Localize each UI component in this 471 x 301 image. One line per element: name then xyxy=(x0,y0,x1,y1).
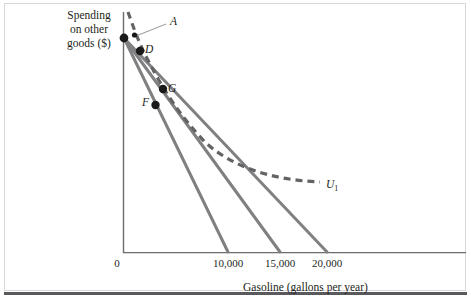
point-D-marker xyxy=(136,47,144,55)
point-A-label: A xyxy=(170,15,177,27)
x-axis-title: Gasoline (gallons per year) xyxy=(243,281,368,293)
endowment-point-marker xyxy=(120,34,129,43)
y-axis-title-row-2: on other xyxy=(58,22,120,36)
budget-line-steepest xyxy=(124,38,228,252)
budget-line-middle xyxy=(124,38,280,252)
x-tick-label-20000: 20,000 xyxy=(299,257,355,269)
figure-container: Spending on other goods ($) Gasoline (ga… xyxy=(0,0,471,301)
x-tick-label-0: 0 xyxy=(105,257,129,269)
point-G-marker xyxy=(159,85,167,93)
x-tick-label-10000: 10,000 xyxy=(200,257,256,269)
point-F-marker xyxy=(151,101,159,109)
point-D-label: D xyxy=(145,43,153,55)
point-A-leader-line xyxy=(136,24,166,36)
curve-label-U1: U1 xyxy=(326,178,338,193)
point-A-marker xyxy=(132,32,137,37)
y-axis-title-row-3: goods ($) xyxy=(58,36,120,50)
point-G-label: G xyxy=(168,82,176,94)
curve-label-U1-subscript: 1 xyxy=(334,184,338,193)
y-axis-title: Spending on other goods ($) xyxy=(58,8,120,50)
indifference-curve-U1 xyxy=(128,12,320,182)
point-F-label: F xyxy=(142,96,149,108)
y-axis-title-row-1: Spending xyxy=(58,8,120,22)
